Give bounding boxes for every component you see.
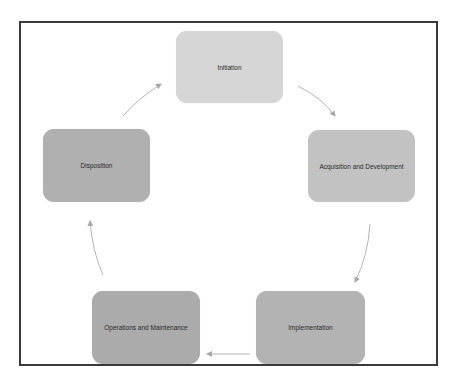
node-initiation: Initiation xyxy=(176,31,283,103)
node-implementation: Implementation xyxy=(256,291,365,364)
node-disposition: Disposition xyxy=(43,129,150,202)
node-acquisition-and-development: Acquisition and Development xyxy=(308,130,415,202)
node-operations-and-maintenance: Operations and Maintenance xyxy=(92,291,200,364)
arrow-initiation-to-acquisition xyxy=(298,86,335,116)
node-label: Disposition xyxy=(81,162,113,169)
arrow-acquisition-to-implementation xyxy=(355,224,370,282)
arrow-disposition-to-initiation xyxy=(123,84,161,116)
node-label: Acquisition and Development xyxy=(319,163,403,170)
node-label: Implementation xyxy=(288,324,332,331)
node-label: Operations and Maintenance xyxy=(104,324,187,331)
arrow-operations-to-disposition xyxy=(90,221,103,275)
node-label: Initiation xyxy=(217,64,241,71)
